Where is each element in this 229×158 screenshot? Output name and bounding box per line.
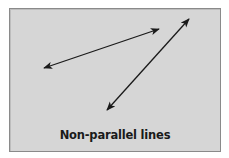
line-1-double-arrow [44, 29, 159, 68]
figure-caption: Non-parallel lines [9, 128, 221, 142]
